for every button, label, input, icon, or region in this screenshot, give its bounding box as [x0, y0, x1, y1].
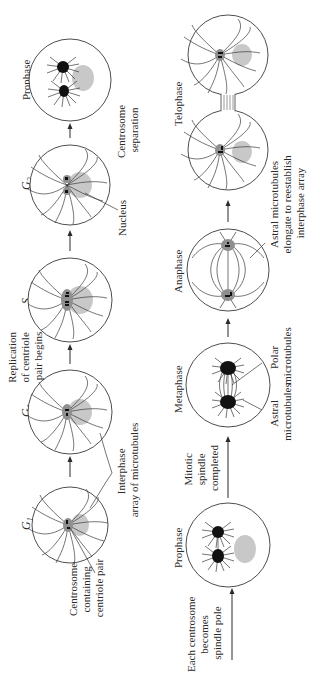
spindle-pole — [212, 549, 224, 563]
annotation-interphase-array: Interphase array of microtubules — [115, 423, 140, 518]
stage-label-telophase: Telophase — [172, 81, 184, 126]
cell-anaphase — [187, 229, 269, 311]
nucleus — [234, 535, 256, 563]
annotation-nucleus: Nucleus — [116, 200, 128, 236]
mitosis-row: Prophase Metaphase Anaphase Telophase Ea… — [172, 15, 306, 672]
transition-spindle-pole: Each centrosome becomes spindle pole — [185, 594, 223, 672]
nucleus — [232, 141, 252, 163]
annotation-centrosome: Centrosome containing centriole pair — [67, 559, 105, 618]
arrow — [230, 588, 235, 660]
spindle-pole — [220, 361, 236, 375]
cell-metaphase — [186, 343, 270, 427]
cell-g1-b — [28, 370, 112, 454]
centrosome — [62, 404, 72, 420]
interphase-row: G1 G1 S G2 Prophase — [6, 39, 140, 617]
transition-replication: Replication of centriole pair begins — [6, 329, 44, 382]
cell-g2 — [28, 145, 110, 225]
daughter-cell-right — [181, 15, 268, 95]
transition-centrosome-separation: Centrosome separation — [115, 102, 140, 158]
stage-label-prophase: Prophase — [172, 528, 184, 568]
cytokinesis-bridge — [221, 94, 235, 111]
cell-telophase — [181, 15, 268, 190]
centrosome — [215, 49, 225, 61]
centrosome — [215, 144, 225, 156]
arrow — [68, 344, 73, 364]
arrow — [68, 456, 73, 477]
daughter-cell-left — [181, 110, 268, 190]
interphase-array-pointer — [100, 433, 112, 473]
spindle-pole — [57, 61, 69, 73]
annotation-astral: Astral microtubules — [268, 383, 293, 440]
annotation-astral-elongate: Astral microtubules elongate to reestabl… — [268, 152, 306, 253]
cell-prophase-top — [29, 39, 111, 121]
arrow — [226, 436, 231, 498]
stage-label-anaphase: Anaphase — [172, 250, 184, 293]
transition-spindle-completed: Mitotic spindle completed — [182, 445, 220, 491]
diagram-canvas: G1 G1 S G2 Prophase — [0, 0, 325, 688]
stage-label-metaphase: Metaphase — [172, 365, 184, 413]
spindle-pole — [220, 395, 236, 409]
nucleus — [68, 172, 92, 198]
arrow — [226, 318, 231, 337]
annotation-polar: Polar microtubules — [268, 327, 293, 384]
cell-s — [28, 258, 112, 342]
cell-prophase — [186, 503, 270, 587]
arrow — [68, 230, 73, 251]
nucleus — [72, 65, 94, 91]
spindle-pole — [59, 85, 69, 97]
arrow — [68, 123, 73, 138]
arrow — [226, 200, 231, 222]
spindle-pole — [212, 526, 224, 538]
